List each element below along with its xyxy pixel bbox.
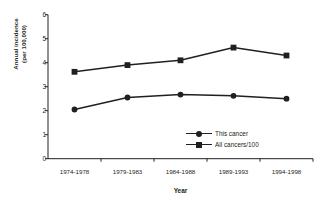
legend-item-all-cancers: All cancers/100: [186, 139, 296, 150]
legend-marker-square-icon: [186, 140, 212, 150]
legend-item-this-cancer: This cancer: [186, 128, 296, 139]
chart-plot: [0, 0, 325, 208]
data-series: [72, 45, 290, 113]
chart-legend: This cancer All cancers/100: [186, 128, 296, 150]
legend-label-this-cancer: This cancer: [212, 129, 248, 138]
legend-marker-circle-icon: [186, 129, 212, 139]
legend-label-all-cancers: All cancers/100: [212, 140, 259, 149]
chart-figure: Annual incidence (per 100,000) 0123456 1…: [0, 0, 325, 208]
